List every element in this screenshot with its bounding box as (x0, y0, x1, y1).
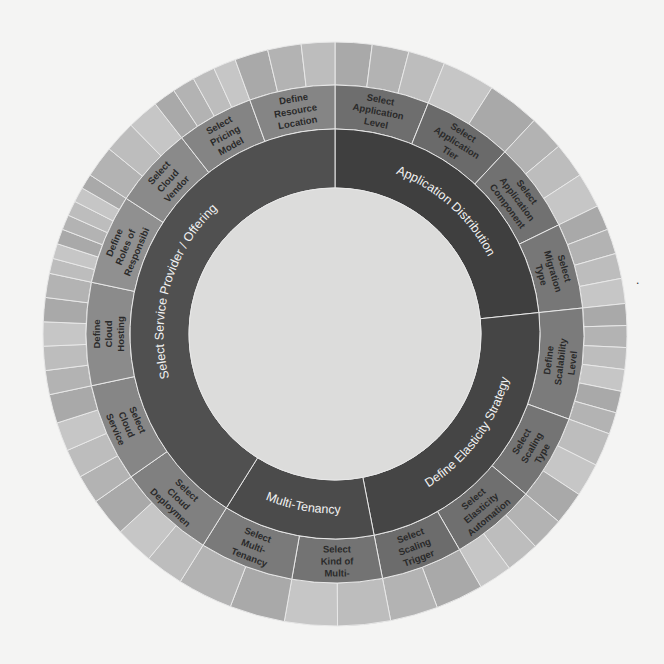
middle-label-line: Hosting (115, 316, 126, 352)
outer-segment[interactable] (43, 322, 86, 346)
outer-segment[interactable] (337, 578, 391, 626)
middle-label: DefineCloudHosting (91, 316, 126, 352)
outer-segment[interactable] (284, 579, 337, 626)
middle-label-line: Kind of (321, 555, 355, 566)
outer-segment[interactable] (584, 326, 627, 348)
outer-segment[interactable] (301, 42, 335, 87)
outer-segment[interactable] (335, 42, 372, 87)
middle-label-line: Cloud (103, 320, 114, 347)
page-marker: . (636, 273, 639, 287)
sunburst-diagram: SelectApplicationLevelSelectApplicationT… (0, 0, 664, 664)
middle-label-line: Select (323, 543, 352, 554)
middle-label-line: Define (91, 319, 102, 348)
middle-label-line: Multi- (324, 567, 349, 578)
outer-segment[interactable] (583, 303, 627, 326)
middle-label: SelectKind ofMulti- (320, 543, 354, 578)
center-hole (189, 188, 481, 480)
